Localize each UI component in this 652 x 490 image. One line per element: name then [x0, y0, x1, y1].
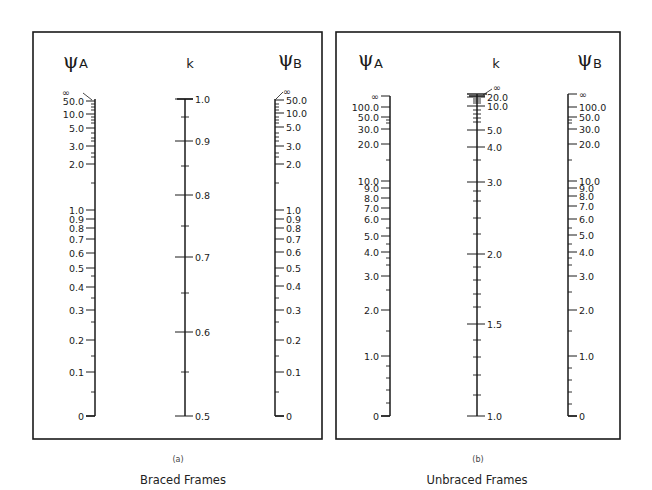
- tick-label: ∞: [371, 91, 379, 102]
- svg-text:B: B: [593, 56, 602, 71]
- tick-label: 6.0: [579, 214, 594, 225]
- tick-label: 0.1: [69, 367, 84, 378]
- svg-text:B: B: [293, 56, 302, 71]
- axis-tick: 7.0: [568, 201, 594, 212]
- axis-tick: 50.0: [275, 95, 307, 106]
- tick-label: 5.0: [286, 122, 301, 133]
- tick-label: 0.4: [286, 281, 301, 292]
- panel-a-caption: Braced Frames: [140, 473, 226, 487]
- svg-text:A: A: [79, 56, 88, 71]
- tick-label: 2.0: [69, 159, 84, 170]
- axis-tick: 2.0: [364, 305, 390, 316]
- axis-tick: 0.8: [175, 190, 210, 201]
- axis-tick: 0.6: [69, 248, 95, 259]
- tick-label: 5.0: [364, 231, 379, 242]
- tick-label: 0.8: [286, 223, 301, 234]
- axis-tick: 3.0: [568, 271, 594, 282]
- tick-label: 3.0: [364, 271, 379, 282]
- tick-label: 0.7: [286, 234, 301, 245]
- axis-tick: 6.0: [568, 214, 594, 225]
- panel-b-psiA-axis: ∞100.050.030.020.010.09.08.07.06.05.04.0…: [352, 91, 390, 422]
- axis-tick: 5.0: [568, 230, 594, 241]
- tick-label: 10.0: [63, 109, 84, 120]
- tick-label: 0.8: [195, 190, 210, 201]
- tick-label: 0.6: [195, 327, 210, 338]
- axis-tick: 0.2: [69, 335, 95, 346]
- svg-text:ψ: ψ: [278, 47, 294, 71]
- svg-text:∞: ∞: [62, 87, 70, 98]
- tick-label: 7.0: [364, 203, 379, 214]
- panel-b-psiB-axis: ∞100.050.030.020.010.09.08.07.06.05.04.0…: [568, 89, 606, 422]
- tick-label: 30.0: [358, 124, 379, 135]
- axis-tick: 0.9: [175, 136, 210, 147]
- tick-label: 0.5: [195, 411, 210, 422]
- axis-tick: 0.6: [275, 247, 301, 258]
- axis-tick: 4.0: [568, 247, 594, 258]
- axis-tick: 1.0: [467, 411, 502, 422]
- axis-tick: 1.0: [568, 351, 594, 362]
- axis-tick: 7.0: [364, 203, 390, 214]
- axis-tick: 0.7: [175, 252, 210, 263]
- tick-label: 1.0: [487, 411, 502, 422]
- panel-a-subtitle: (a): [172, 455, 183, 464]
- axis-tick: 50.0: [358, 112, 390, 123]
- svg-text:ψ: ψ: [63, 49, 79, 73]
- tick-label: 0: [286, 411, 292, 422]
- tick-label: 10.0: [487, 101, 508, 112]
- tick-label: 5.0: [579, 230, 594, 241]
- panel-a-psiA-header: ψ A: [63, 49, 88, 73]
- panel-b-psiB-header: ψ B: [577, 47, 602, 71]
- axis-tick: 5.0: [69, 123, 95, 134]
- tick-label: 2.0: [364, 305, 379, 316]
- axis-tick: 30.0: [358, 124, 390, 135]
- tick-label: 0: [78, 411, 84, 422]
- svg-text:ψ: ψ: [358, 47, 374, 71]
- axis-tick: ∞: [371, 91, 390, 102]
- svg-text:A: A: [374, 56, 383, 71]
- tick-label: 10.0: [286, 108, 307, 119]
- axis-tick: 1.0: [364, 351, 390, 362]
- tick-label: 3.0: [579, 271, 594, 282]
- tick-label: 30.0: [579, 124, 600, 135]
- tick-label: 0: [579, 411, 585, 422]
- panel-a-psiB-axis: 50.010.05.03.02.01.00.90.80.70.60.50.40.…: [275, 95, 307, 422]
- tick-label: 0.5: [286, 263, 301, 274]
- axis-tick: 0.5: [275, 263, 301, 274]
- axis-tick: 1.5: [467, 319, 502, 330]
- tick-label: 4.0: [364, 247, 379, 258]
- axis-tick: 4.0: [364, 247, 390, 258]
- axis-tick: 2.0: [568, 305, 594, 316]
- tick-label: 7.0: [579, 201, 594, 212]
- tick-label: 5.0: [487, 125, 502, 136]
- tick-label: 20.0: [358, 139, 379, 150]
- tick-label: 0: [373, 411, 379, 422]
- tick-label: 5.0: [69, 123, 84, 134]
- panel-b-k-axis: 20.010.05.04.03.02.01.51.0∞: [467, 82, 508, 422]
- axis-tick: 20.0: [568, 139, 600, 150]
- panel-b-subtitle: (b): [472, 455, 483, 464]
- panel-a-k-header: k: [186, 56, 194, 71]
- tick-label: 0.3: [286, 305, 301, 316]
- tick-label: 0.7: [195, 252, 210, 263]
- panel-b-caption: Unbraced Frames: [427, 473, 528, 487]
- axis-tick: 0.4: [69, 282, 95, 293]
- tick-label: 3.0: [487, 177, 502, 188]
- axis-tick: 0.2: [275, 335, 301, 346]
- axis-tick: 0.6: [175, 327, 210, 338]
- tick-label: 0.6: [69, 248, 84, 259]
- axis-tick: 3.0: [467, 177, 502, 188]
- axis-tick: 4.0: [467, 142, 502, 153]
- tick-label: 4.0: [579, 247, 594, 258]
- axis-tick: 3.0: [275, 141, 301, 152]
- tick-label: 0.1: [286, 367, 301, 378]
- axis-tick: 2.0: [275, 159, 301, 170]
- tick-label: 0.4: [69, 282, 84, 293]
- svg-text:∞: ∞: [283, 86, 291, 97]
- tick-label: 6.0: [364, 214, 379, 225]
- tick-label: 4.0: [487, 142, 502, 153]
- axis-tick: 0.7: [69, 234, 95, 245]
- axis-tick: 0.4: [275, 281, 301, 292]
- axis-tick: 20.0: [358, 139, 390, 150]
- axis-tick: 0.8: [275, 223, 301, 234]
- axis-tick: 3.0: [69, 141, 95, 152]
